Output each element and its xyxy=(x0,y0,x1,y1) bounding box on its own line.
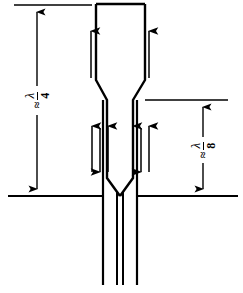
diagram-canvas: ≈ λ 4 ≈ λ 8 xyxy=(0,0,243,293)
denominator-eight: 8 xyxy=(205,142,217,150)
denominator-four: 4 xyxy=(39,92,51,100)
lower-parallel-lines xyxy=(103,192,137,285)
lambda-symbol-right: λ xyxy=(189,142,202,150)
approx-symbol-left: ≈ xyxy=(30,102,45,109)
eighth-wavelength-label: ≈ λ 8 xyxy=(189,120,217,180)
lambda-over-eight-fraction: λ 8 xyxy=(189,142,218,150)
quarter-wavelength-label: ≈ λ 4 xyxy=(23,70,51,130)
approx-symbol-right: ≈ xyxy=(196,152,211,159)
lambda-symbol-left: λ xyxy=(23,92,36,100)
lambda-over-four-fraction: λ 4 xyxy=(23,92,52,100)
